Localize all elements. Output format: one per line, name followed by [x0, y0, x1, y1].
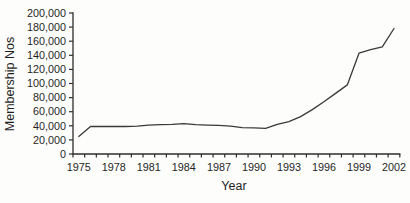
x-tick-label: 1975 [67, 161, 91, 173]
membership-chart-figure: 020,00040,00060,00080,000100,000120,0001… [0, 0, 410, 203]
y-tick-label: 0 [60, 148, 66, 160]
x-tick-label: 1996 [312, 161, 336, 173]
x-tick-label: 1978 [102, 161, 126, 173]
membership-line-chart: 020,00040,00060,00080,000100,000120,0001… [0, 0, 410, 203]
y-tick-label: 40,000 [33, 120, 66, 132]
axes-lines [73, 13, 400, 154]
membership-series-line [79, 29, 394, 137]
y-tick-label: 60,000 [33, 105, 66, 117]
x-axis-title: Year [221, 179, 246, 193]
x-tick-label: 1993 [277, 161, 301, 173]
x-tick-label: 1999 [347, 161, 371, 173]
chart-plot-area: 020,00040,00060,00080,000100,000120,0001… [27, 7, 406, 173]
y-tick-label: 140,000 [27, 49, 66, 61]
x-tick-label: 1981 [137, 161, 161, 173]
x-tick-label: 1987 [207, 161, 231, 173]
x-tick-label: 1984 [172, 161, 196, 173]
y-tick-label: 120,000 [27, 63, 66, 75]
y-tick-label: 80,000 [33, 91, 66, 103]
y-axis-title: Membership Nos [3, 37, 17, 131]
y-tick-label: 20,000 [33, 134, 66, 146]
x-tick-label: 2002 [382, 161, 406, 173]
x-tick-label: 1990 [242, 161, 266, 173]
y-tick-label: 160,000 [27, 35, 66, 47]
y-tick-label: 100,000 [27, 77, 66, 89]
y-tick-label: 200,000 [27, 7, 66, 19]
y-tick-label: 180,000 [27, 21, 66, 33]
